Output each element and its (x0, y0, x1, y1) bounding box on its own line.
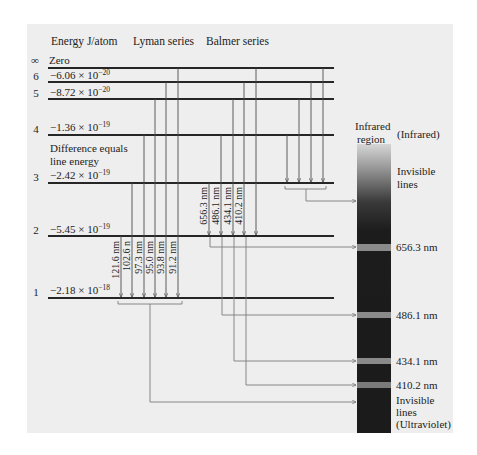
level-number-3: 3 (33, 171, 39, 183)
infrared-label: (Infrared) (397, 128, 440, 141)
level-number-5: 5 (33, 87, 39, 99)
invisible-ir-label-1: Invisible (397, 165, 436, 177)
spectrum-band-656 (357, 244, 391, 251)
level-number-6: 6 (33, 70, 39, 82)
balmer-series-header: Balmer series (206, 35, 269, 47)
level-number-infinity: ∞ (31, 54, 39, 66)
spectrum-band-434 (357, 358, 391, 364)
uv-label-3: (Ultraviolet) (396, 418, 451, 431)
note-line-1: Difference equals (50, 142, 128, 154)
lyman-wavelength-label: 102.6 n (121, 241, 132, 271)
lyman-series-header: Lyman series (133, 35, 195, 48)
balmer-wavelength-label: 410.2 nm (233, 187, 244, 225)
spectrum-band-486 (357, 312, 391, 318)
band-label-656: 656.3 nm (396, 241, 438, 253)
level-number-2: 2 (33, 224, 39, 236)
balmer-wavelength-label: 656.3 nm (198, 187, 209, 225)
lyman-wavelength-label: 91.2 nm (167, 241, 178, 274)
uv-label-1: Invisible (396, 394, 435, 406)
energy-value-infinity: Zero (49, 54, 70, 66)
infrared-region-label-2: region (357, 133, 386, 145)
level-number-1: 1 (33, 286, 39, 298)
invisible-ir-label-2: lines (397, 178, 418, 190)
note-line-2: line energy (50, 155, 99, 167)
band-label-434: 434.1 nm (396, 355, 438, 367)
spectrum-band-410 (357, 382, 391, 388)
lyman-wavelength-label: 97.3 nm (133, 241, 144, 274)
lyman-wavelength-label: 121.6 nm (110, 241, 121, 279)
energy-level-diagram: Energy J/atom Lyman series Balmer series… (0, 0, 477, 455)
balmer-wavelength-label: 434.1 nm (222, 187, 233, 225)
infrared-region-label-1: Infrared (355, 120, 391, 132)
band-label-486: 486.1 nm (396, 309, 438, 321)
lyman-wavelength-label: 93.8 nm (155, 241, 166, 274)
uv-label-2: lines (396, 406, 417, 418)
spectrum-bar (357, 144, 391, 433)
lyman-wavelength-label: 95.0 nm (144, 241, 155, 274)
band-label-410: 410.2 nm (396, 379, 438, 391)
level-number-4: 4 (33, 123, 39, 135)
energy-header: Energy J/atom (51, 35, 118, 48)
balmer-wavelength-label: 486.1 nm (210, 187, 221, 225)
